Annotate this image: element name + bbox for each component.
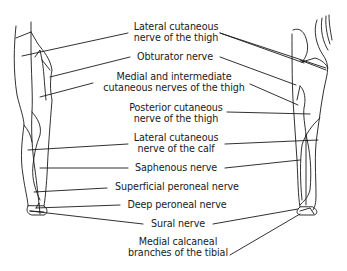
label-line: cutaneous nerves of the thigh bbox=[103, 82, 244, 93]
label-medial-intermediate-cutaneous-nerves-thigh: Medial and intermediate cutaneous nerves… bbox=[103, 71, 244, 93]
label-lateral-cutaneous-nerve-thigh: Lateral cutaneous nerve of the thigh bbox=[134, 21, 219, 43]
label-line: nerve of the thigh bbox=[134, 32, 219, 43]
label-lateral-cutaneous-nerve-calf: Lateral cutaneous nerve of the calf bbox=[134, 132, 219, 154]
label-medial-calcaneal-branches-tibial: Medial calcaneal branches of the tibial bbox=[128, 236, 228, 258]
label-deep-peroneal-nerve: Deep peroneal nerve bbox=[127, 199, 226, 210]
label-line: Superficial peroneal nerve bbox=[115, 181, 239, 192]
right-leg-outline bbox=[292, 15, 332, 215]
label-line: Saphenous nerve bbox=[135, 162, 217, 173]
nerve-diagram: Lateral cutaneous nerve of the thigh Obt… bbox=[0, 0, 347, 271]
label-sural-nerve: Sural nerve bbox=[151, 218, 205, 229]
label-posterior-cutaneous-nerve-thigh: Posterior cutaneous nerve of the thigh bbox=[129, 102, 222, 124]
label-line: Obturator nerve bbox=[137, 51, 213, 62]
label-line: Medial calcaneal bbox=[128, 236, 228, 247]
label-saphenous-nerve: Saphenous nerve bbox=[135, 162, 217, 173]
label-line: branches of the tibial bbox=[128, 247, 228, 258]
label-line: Sural nerve bbox=[151, 218, 205, 229]
label-line: nerve of the thigh bbox=[129, 113, 222, 124]
label-line: nerve of the calf bbox=[134, 143, 219, 154]
label-superficial-peroneal-nerve: Superficial peroneal nerve bbox=[115, 181, 239, 192]
label-line: Posterior cutaneous bbox=[129, 102, 222, 113]
label-line: Medial and intermediate bbox=[103, 71, 244, 82]
label-obturator-nerve: Obturator nerve bbox=[137, 51, 213, 62]
label-line: Deep peroneal nerve bbox=[127, 199, 226, 210]
label-line: Lateral cutaneous bbox=[134, 132, 219, 143]
label-line: Lateral cutaneous bbox=[134, 21, 219, 32]
